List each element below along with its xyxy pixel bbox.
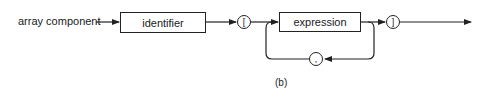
identifier-box: identifier — [120, 12, 206, 33]
figure-caption: (b) — [275, 77, 287, 88]
open-bracket-terminal: [ — [237, 15, 251, 29]
expression-box: expression — [279, 12, 361, 32]
close-bracket-terminal: ] — [386, 15, 400, 29]
rule-name-label: array component — [18, 15, 101, 27]
comma-terminal: , — [309, 52, 323, 66]
